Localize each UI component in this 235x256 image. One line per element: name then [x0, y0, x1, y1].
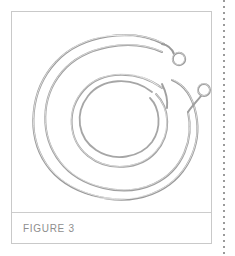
coiled-wire-illustration — [12, 12, 211, 212]
innermost-coil-loop — [80, 81, 159, 157]
wire-highlights — [72, 36, 158, 200]
upper-wire-tail — [162, 44, 174, 54]
figure-caption-label: FIGURE 3 — [23, 223, 75, 234]
middle-coil-loop — [45, 45, 189, 191]
illustration-area — [12, 12, 211, 212]
lower-terminal-eyelet — [198, 84, 210, 96]
figure-panel: FIGURE 3 — [11, 11, 212, 244]
inner-coil-loop — [71, 74, 167, 167]
caption-band: FIGURE 3 — [12, 213, 211, 243]
upper-terminal-eyelet — [172, 52, 185, 65]
dotted-margin-rule — [223, 0, 225, 256]
figure-page: FIGURE 3 — [0, 0, 235, 256]
